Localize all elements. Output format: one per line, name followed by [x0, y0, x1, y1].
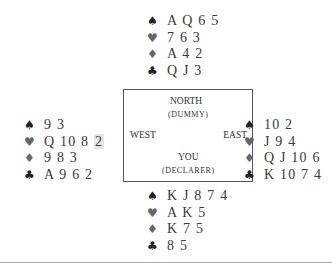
east-spades: 10 2 [264, 117, 293, 134]
east-diamonds: Q J 10 6 [264, 150, 321, 167]
north-clubs: Q J 3 [167, 63, 203, 80]
club-icon: ♣ [24, 167, 44, 184]
south-diamonds: K 7 5 [167, 221, 204, 238]
diamond-icon: ♦ [147, 221, 167, 238]
club-icon: ♣ [147, 238, 167, 255]
north-label: NORTH [170, 96, 202, 106]
club-icon: ♣ [244, 167, 264, 184]
heart-icon: ♥ [147, 205, 167, 222]
south-sublabel: (DECLARER) [162, 166, 215, 175]
east-hand: ♠10 2 ♥J 9 4 ♦Q J 10 6 ♣K 10 7 4 [244, 117, 322, 183]
west-label: WEST [130, 130, 156, 140]
divider [0, 262, 332, 263]
diamond-icon: ♦ [147, 46, 167, 63]
west-hand: ♠9 3 ♥Q 10 8 2 ♦9 8 3 ♣A 9 6 2 [24, 117, 104, 183]
diamond-icon: ♦ [24, 150, 44, 167]
west-spades: 9 3 [44, 117, 65, 134]
west-hearts: Q 10 8 2 [44, 134, 104, 151]
spade-icon: ♠ [24, 117, 44, 134]
heart-icon: ♥ [24, 134, 44, 151]
south-clubs: 8 5 [167, 238, 188, 255]
east-clubs: K 10 7 4 [264, 167, 322, 184]
south-hearts: A K 5 [167, 205, 206, 222]
club-icon: ♣ [147, 63, 167, 80]
west-diamonds: 9 8 3 [44, 150, 78, 167]
west-clubs: A 9 6 2 [44, 167, 93, 184]
west-hearts-main: Q 10 8 [44, 134, 89, 149]
north-diamonds: A 4 2 [167, 46, 203, 63]
east-hearts: J 9 4 [264, 134, 296, 151]
south-label: YOU [178, 152, 199, 162]
north-hand: ♠A Q 6 5 ♥7 6 3 ♦A 4 2 ♣Q J 3 [147, 13, 219, 79]
west-hearts-highlighted-card: 2 [94, 134, 104, 149]
compass-table: NORTH (DUMMY) WEST EAST YOU (DECLARER) [123, 89, 253, 182]
spade-icon: ♠ [244, 117, 264, 134]
heart-icon: ♥ [147, 30, 167, 47]
spade-icon: ♠ [147, 13, 167, 30]
south-spades: K J 8 7 4 [167, 188, 228, 205]
north-sublabel: (DUMMY) [168, 110, 208, 119]
spade-icon: ♠ [147, 188, 167, 205]
diamond-icon: ♦ [244, 150, 264, 167]
south-hand: ♠K J 8 7 4 ♥A K 5 ♦K 7 5 ♣8 5 [147, 188, 228, 254]
north-hearts: 7 6 3 [167, 30, 201, 47]
north-spades: A Q 6 5 [167, 13, 219, 30]
heart-icon: ♥ [244, 134, 264, 151]
